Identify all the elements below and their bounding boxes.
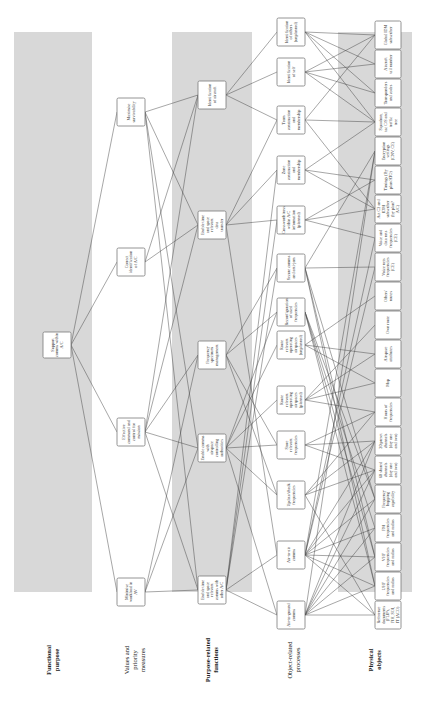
node-label: and two) [393, 462, 398, 477]
node-x17: Encryptionsettings(CNV, CE) [375, 137, 401, 165]
node-label: survivability [131, 101, 136, 123]
layer-label-vpm: Values and [123, 645, 130, 674]
node-label: and radios [390, 548, 395, 566]
node-x15: Act C2 andIDMsubscriber(by plan?A/C) [375, 195, 401, 223]
node-x21: Global IDMsubscriber [375, 21, 401, 49]
node-p3: Frequencyspectrummanagement [198, 341, 226, 369]
node-label: A/C) [395, 204, 400, 213]
node-label: (planned) [298, 391, 303, 408]
node-x16: Timings (Byplan/ATO) [375, 166, 401, 194]
node-label: management [214, 343, 219, 365]
node-label: tail number [388, 54, 393, 74]
node-label: and two) [393, 433, 398, 448]
layer-label-orp: processes [294, 647, 301, 672]
node-p2: Enable commswithairspacecontrollingautho… [198, 434, 226, 462]
node-label: A/C [59, 341, 64, 348]
node-o10: Zoneconstructionandmembership [277, 156, 305, 184]
node-label: frequencies [293, 302, 298, 322]
layer-label-vpm: measures [139, 647, 146, 672]
node-label: comms [291, 549, 296, 561]
node-o5: Routerelevantoperatingairspaces(planned) [277, 386, 305, 414]
node-o7: Reconfigurationof usedfrequencies [277, 297, 305, 326]
node-o1: Air-to-groundcomms [277, 601, 305, 629]
node-label: (CE) [390, 262, 395, 271]
node-x13: Voice netsfrequencies(CE) [375, 253, 401, 281]
node-label: authorities [219, 439, 224, 457]
node-v1: Minimiseworkload inAV [117, 578, 145, 606]
layer-label-prf: functions [212, 647, 219, 673]
node-label: frequencies [293, 435, 298, 455]
node-v4: Maximisesurvivability [117, 98, 145, 126]
layer-label-fp: Functional [45, 645, 52, 675]
node-o3: Update/checkfrequencies [277, 481, 305, 509]
layer-label-fp: purpose [53, 649, 60, 672]
node-label: transfer [219, 218, 224, 231]
node-v2: Effectivecommand andcontrol formission [117, 418, 145, 446]
node-p5: Identificationof aircraft [198, 81, 226, 109]
band-fp [14, 32, 92, 592]
node-label: capability [390, 490, 395, 507]
node-label: IT (ACO) [395, 606, 400, 623]
node-label: other A/C [219, 582, 224, 599]
node-o12: Identificationof self [277, 58, 305, 86]
node-label: Map [385, 379, 390, 387]
node-x9: Map [375, 369, 401, 397]
node-label: (planned) [296, 211, 301, 228]
node-x5: Frequencyhoppingcapability [375, 485, 401, 513]
node-label: routes [388, 291, 393, 302]
node-label: and anti-jam [291, 257, 296, 279]
layer-label-po: objects [375, 650, 382, 670]
node-label: tree [393, 119, 398, 125]
node-fp1: Supportcomms withinA/C [43, 332, 71, 358]
node-o8: Secure commsand anti-jam [277, 254, 305, 282]
node-v3: Correctidentificationof A/C [117, 248, 145, 276]
node-label: (CE) [393, 233, 398, 242]
node-label: Own route [385, 316, 390, 334]
layer-label-vpm: priority [131, 650, 138, 670]
node-x11: Own route [375, 311, 401, 339]
node-x1: Referencedocuments(FLIPs,FIH, SOI,IT (AC… [375, 601, 401, 629]
layer-label-po: Physical [367, 648, 374, 671]
node-label: (unplanned) [298, 334, 303, 355]
node-label: AV [133, 589, 138, 595]
layer-label-orp: Object-related [286, 641, 293, 679]
node-label: membership [296, 160, 301, 181]
node-label: (unplanned) [293, 21, 298, 42]
node-x8: Hours offrequencies [375, 398, 401, 426]
node-p1: Enable timeand spacerelevantcomms withot… [198, 576, 226, 604]
node-label: and radios [390, 519, 395, 537]
layer-labels: FunctionalpurposeValues andprioritymeasu… [45, 637, 382, 682]
node-label: and codes [388, 84, 393, 101]
node-o4: Storerelevantfrequencies [277, 431, 305, 459]
node-label: mission [136, 425, 141, 439]
node-o2: Air-to-aircomms [277, 541, 305, 569]
layer-label-prf: Purpose-related [204, 637, 211, 682]
node-label: plan/ATO) [388, 170, 393, 188]
node-x10: Airspaceattributes [375, 340, 401, 368]
node-x12: Others'routes [375, 282, 401, 310]
node-x20: Aircrafttail number [375, 50, 401, 78]
node-p4: Enable timeand spacerelevantdatatransfer [198, 211, 226, 239]
node-o6: Routerelevantoperatingairspaces(unplanne… [277, 331, 305, 359]
node-x7: 20 presetchannels(day oneand two) [375, 427, 401, 455]
node-x2: UHFfrequenciesand radios [375, 572, 401, 600]
node-label: of self [291, 66, 296, 77]
edge-p1-o1 [226, 590, 277, 615]
node-o13: Identificationof others(unplanned) [277, 18, 305, 46]
node-label: comms [291, 609, 296, 621]
node-o9: Crossworthinesswithin A/Cinformation(pla… [277, 206, 305, 234]
node-label: of aircraft [212, 86, 217, 103]
node-label: attributes [388, 346, 393, 362]
node-label: frequencies [388, 402, 393, 422]
node-label: frequencies [291, 485, 296, 505]
abstraction-hierarchy-diagram: Supportcomms withinA/CMinimiseworkload i… [0, 0, 429, 720]
node-x6: 60 sharedchannels(day oneand two) [375, 456, 401, 484]
node-x14: Voice anddata netsfrequencies(CE) [375, 224, 401, 252]
node-label: subscriber [388, 26, 393, 44]
node-label: of A/C [133, 256, 138, 267]
node-label: membership [296, 110, 301, 131]
node-x4: FMfrequenciesand radios [375, 514, 401, 542]
node-o11: Teamconstructionandmembership [277, 106, 305, 134]
node-x3: VHFfrequenciesand radios [375, 543, 401, 571]
node-label: and radios [390, 577, 395, 595]
